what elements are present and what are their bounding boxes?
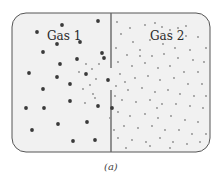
gas-2-particle bbox=[120, 33, 122, 35]
gas-2-particle bbox=[186, 143, 188, 145]
gas-1-particle bbox=[93, 138, 97, 142]
gas-2-particle bbox=[144, 24, 146, 26]
gas-2-particle bbox=[199, 141, 201, 143]
gas-2-particle bbox=[139, 49, 141, 51]
gas-2-particle bbox=[78, 71, 80, 73]
gas-2-particle bbox=[132, 41, 134, 43]
gas-1-particle bbox=[71, 139, 75, 143]
gas-2-particle bbox=[94, 97, 96, 99]
gas-2-particle bbox=[197, 121, 199, 123]
gas-1-particle bbox=[56, 122, 60, 126]
gas-2-particle bbox=[151, 125, 153, 127]
gas-2-particle bbox=[154, 22, 156, 24]
gas-2-particle bbox=[141, 87, 143, 89]
gas-2-particle bbox=[184, 119, 186, 121]
gas-1-particle bbox=[96, 104, 100, 108]
gas-2-particle bbox=[115, 85, 117, 87]
gas-1-label: Gas 1 bbox=[47, 29, 81, 43]
gas-2-particle bbox=[135, 101, 137, 103]
gas-1-particle bbox=[68, 99, 72, 103]
gas-2-particle bbox=[147, 75, 149, 77]
gas-mixing-diagram: Gas 1 Gas 2 (a) bbox=[0, 0, 222, 179]
gas-2-particle bbox=[191, 133, 193, 135]
gas-2-particle bbox=[121, 99, 123, 101]
gas-2-particle bbox=[129, 27, 131, 29]
gas-2-particle bbox=[117, 111, 119, 113]
gas-2-particle bbox=[126, 54, 128, 56]
gas-2-particle bbox=[109, 117, 111, 119]
gas-2-particle bbox=[172, 141, 174, 143]
gas-1-particle bbox=[75, 57, 79, 61]
gas-1-particle bbox=[30, 128, 34, 132]
gas-2-particle bbox=[205, 47, 207, 49]
gas-2-particle bbox=[179, 93, 181, 95]
gas-2-particle bbox=[91, 68, 93, 70]
gas-1-particle bbox=[41, 87, 45, 91]
gas-2-particle bbox=[115, 47, 117, 49]
gas-2-particle bbox=[183, 71, 185, 73]
gas-2-particle bbox=[117, 61, 119, 63]
gas-2-label: Gas 2 bbox=[150, 29, 184, 43]
gas-2-particle bbox=[187, 83, 189, 85]
gas-2-particle bbox=[134, 77, 136, 79]
gas-2-particle bbox=[189, 105, 191, 107]
gas-2-particle bbox=[163, 53, 165, 55]
gas-1-particle bbox=[85, 120, 89, 124]
gas-1-particle bbox=[24, 106, 28, 110]
gas-2-particle bbox=[189, 49, 191, 51]
gas-2-particle bbox=[173, 77, 175, 79]
gas-2-particle bbox=[144, 113, 146, 115]
gas-1-particle bbox=[102, 56, 106, 60]
gas-2-particle bbox=[127, 89, 129, 91]
gas-2-particle bbox=[157, 117, 159, 119]
gas-2-particle bbox=[151, 55, 153, 57]
gas-2-particle bbox=[98, 63, 100, 65]
gas-2-particle bbox=[162, 43, 164, 45]
gas-2-particle bbox=[157, 67, 159, 69]
gas-2-particle bbox=[156, 107, 158, 109]
gas-2-particle bbox=[137, 127, 139, 129]
gas-2-particle bbox=[167, 89, 169, 91]
gas-2-particle bbox=[203, 61, 205, 63]
gas-2-particle bbox=[131, 139, 133, 141]
gas-2-particle bbox=[145, 141, 147, 143]
gas-2-particle bbox=[170, 115, 172, 117]
gas-2-particle bbox=[185, 25, 187, 27]
gas-1-particle bbox=[96, 19, 100, 23]
gas-2-particle bbox=[174, 47, 176, 49]
gas-2-particle bbox=[95, 78, 97, 80]
gas-1-particle bbox=[27, 71, 31, 75]
gas-2-particle bbox=[139, 55, 141, 57]
gas-2-particle bbox=[169, 65, 171, 67]
gas-2-particle bbox=[144, 62, 146, 64]
gas-2-particle bbox=[193, 95, 195, 97]
gas-2-particle bbox=[169, 147, 171, 149]
gas-2-particle bbox=[202, 107, 204, 109]
gas-2-particle bbox=[177, 57, 179, 59]
gas-2-particle bbox=[129, 115, 131, 117]
gas-2-particle bbox=[192, 59, 194, 61]
figure-caption: (a) bbox=[104, 161, 118, 172]
gas-2-particle bbox=[164, 129, 166, 131]
gas-2-particle bbox=[201, 83, 203, 85]
gas-2-particle bbox=[85, 63, 87, 65]
gas-2-particle bbox=[154, 91, 156, 93]
gas-2-particle bbox=[161, 26, 163, 28]
gas-2-particle bbox=[185, 35, 187, 37]
gas-1-particle bbox=[58, 62, 62, 66]
gas-1-particle bbox=[68, 82, 72, 86]
gas-2-particle bbox=[131, 65, 133, 67]
gas-2-particle bbox=[116, 21, 118, 23]
gas-1-particle bbox=[84, 72, 88, 76]
gas-2-particle bbox=[124, 81, 126, 83]
gas-2-particle bbox=[159, 137, 161, 139]
gas-2-particle bbox=[159, 79, 161, 81]
gas-2-particle bbox=[197, 36, 199, 38]
gas-1-particle bbox=[42, 106, 46, 110]
gas-2-particle bbox=[175, 103, 177, 105]
gas-2-particle bbox=[161, 103, 163, 105]
gas-1-particle bbox=[55, 75, 59, 79]
gas-2-particle bbox=[178, 129, 180, 131]
gas-1-particle bbox=[35, 30, 39, 34]
gas-2-particle bbox=[82, 88, 84, 90]
